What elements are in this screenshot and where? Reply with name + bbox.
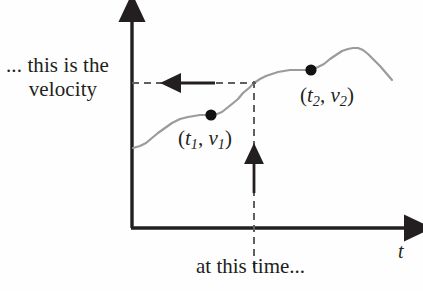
time-annotation: at this time... [196, 255, 305, 279]
velocity-annotation-line1: ... this is the [4, 54, 130, 78]
data-point-1-marker [205, 109, 216, 120]
point2-v: v [330, 83, 339, 107]
data-point-2-marker [305, 64, 316, 75]
point2-t-subscript: 2 [313, 93, 320, 109]
data-point-1-label: (t1, v1) [178, 127, 232, 152]
point1-v: v [208, 126, 217, 150]
point1-close-paren: ) [225, 126, 232, 150]
point1-t-subscript: 1 [191, 136, 198, 152]
point2-close-paren: ) [347, 83, 354, 107]
data-point-2-label: (t2, v2) [300, 84, 354, 109]
point1-v-subscript: 1 [218, 136, 225, 152]
velocity-annotation: ... this is the velocity [4, 54, 130, 101]
x-axis-label: t [398, 240, 404, 262]
velocity-time-diagram: ... this is the velocity (t1, v1) (t2, v… [0, 0, 423, 291]
point2-comma: , [320, 83, 331, 107]
velocity-annotation-line2: velocity [4, 78, 130, 102]
point2-v-subscript: 2 [340, 93, 347, 109]
point1-open-paren: ( [178, 126, 185, 150]
point1-comma: , [198, 126, 209, 150]
point2-open-paren: ( [300, 83, 307, 107]
